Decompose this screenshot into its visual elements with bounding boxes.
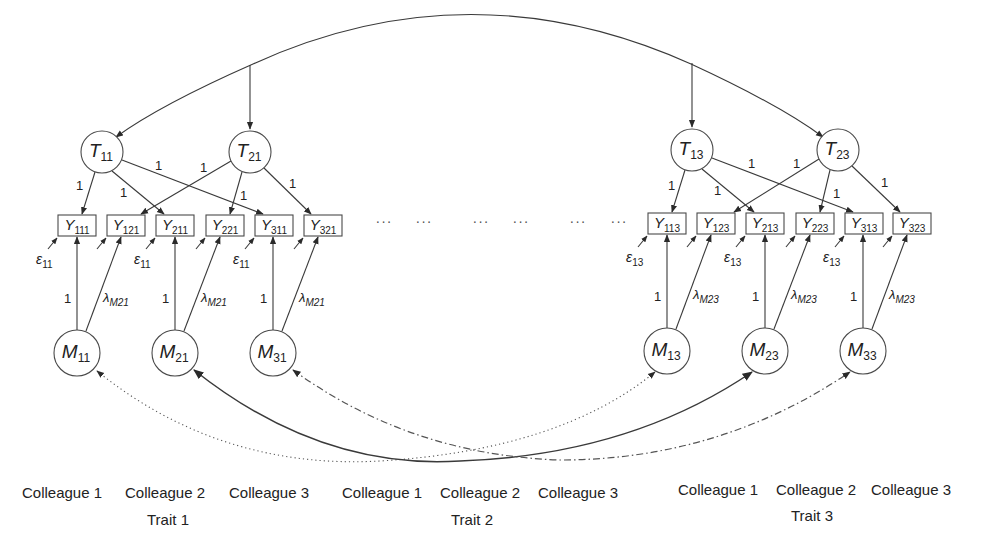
trait-group-3: Colleague 1Colleague 2Colleague 3Trait 3 bbox=[678, 481, 951, 524]
trait-label: Trait 2 bbox=[451, 511, 493, 528]
error-label: ε11 bbox=[36, 251, 53, 270]
trait-correlation-arc-left bbox=[116, 64, 253, 137]
trait-loading-label: 1 bbox=[76, 178, 83, 193]
trait-loading-label: 1 bbox=[748, 156, 755, 171]
indicator-y313: Y313 bbox=[845, 213, 883, 234]
loading-arrow bbox=[774, 235, 810, 329]
method-loading-label: 1 bbox=[654, 289, 661, 304]
trait-correlation-arc bbox=[253, 15, 691, 65]
lambda-label: λM21 bbox=[298, 290, 325, 308]
colleague-label: Colleague 3 bbox=[538, 484, 618, 501]
error-label: ε13 bbox=[724, 249, 742, 268]
method-correlation-arc-dashdot bbox=[293, 370, 850, 460]
colleague-label: Colleague 1 bbox=[22, 484, 102, 501]
trait-factor-t23: T23 bbox=[817, 129, 859, 171]
loading-arrow bbox=[734, 159, 819, 212]
loading-arrow bbox=[820, 170, 830, 212]
trait-loading-label: 1 bbox=[240, 188, 247, 203]
method-correlation-arcs bbox=[97, 370, 850, 462]
mtmm-path-diagram: T11T21T13T23 M11M21M31M13M23M33 Y111Y121… bbox=[0, 0, 988, 538]
ellipsis-dots: ··· bbox=[473, 213, 490, 229]
trait-correlation-arc-right bbox=[691, 64, 823, 137]
colleague-label: Colleague 3 bbox=[229, 484, 309, 501]
method-factor-m11: M11 bbox=[54, 330, 100, 376]
lambda-label: λM21 bbox=[200, 290, 227, 308]
error-arrow bbox=[786, 236, 795, 247]
indicator-y123: Y123 bbox=[697, 213, 735, 234]
error-arrow bbox=[196, 238, 205, 249]
indicator-y111: Y111 bbox=[58, 215, 96, 236]
error-arrow bbox=[97, 238, 106, 249]
error-arrow bbox=[146, 238, 155, 249]
trait-correlation-arcs bbox=[116, 15, 823, 138]
method-factor-m23: M23 bbox=[742, 328, 788, 374]
loading-arrow bbox=[282, 237, 318, 331]
ellipsis-dots: ··· bbox=[513, 213, 530, 229]
error-label: ε13 bbox=[626, 249, 644, 268]
method-loading-label: 1 bbox=[752, 289, 759, 304]
indicator-y211: Y211 bbox=[156, 215, 194, 236]
error-arrow bbox=[883, 236, 892, 247]
ellipsis-dots: ··· bbox=[416, 213, 433, 229]
error-arrow bbox=[48, 238, 57, 249]
colleague-label: Colleague 3 bbox=[871, 481, 951, 498]
colleague-label: Colleague 2 bbox=[125, 484, 205, 501]
loading-arrow bbox=[86, 237, 121, 331]
ellipsis-dots: ··· bbox=[570, 213, 587, 229]
lambda-label: λM23 bbox=[692, 287, 719, 305]
method-factors: M11M21M31M13M23M33 bbox=[54, 328, 886, 376]
error-arrow bbox=[736, 236, 745, 247]
method-loading-label: 1 bbox=[260, 291, 267, 306]
error-label: ε13 bbox=[823, 249, 841, 268]
trait-loading-label: 1 bbox=[200, 160, 207, 175]
trait-factor-t21: T21 bbox=[229, 131, 271, 173]
lambda-label: λM21 bbox=[102, 290, 129, 308]
error-arrow bbox=[245, 238, 254, 249]
loading-arrow bbox=[184, 237, 220, 331]
ellipsis-dots: ··· bbox=[611, 213, 628, 229]
trait-label: Trait 3 bbox=[791, 507, 833, 524]
ellipsis-dots: ··· bbox=[376, 213, 393, 229]
method-factor-m33: M33 bbox=[840, 328, 886, 374]
error-arrow bbox=[294, 238, 303, 249]
trait-loading-label: 1 bbox=[833, 186, 840, 201]
indicator-y113: Y113 bbox=[648, 213, 686, 234]
loading-arrow bbox=[852, 166, 900, 212]
colleague-label: Colleague 2 bbox=[776, 481, 856, 498]
method-correlation-arc-solid bbox=[194, 370, 752, 462]
error-arrow bbox=[638, 236, 647, 247]
trait-loading-label: 1 bbox=[120, 185, 127, 200]
trait-loading-label: 1 bbox=[155, 158, 162, 173]
indicator-y323: Y323 bbox=[893, 213, 931, 234]
error-label: ε11 bbox=[134, 251, 151, 270]
loading-arrow bbox=[872, 235, 907, 329]
trait-loading-label: 1 bbox=[793, 156, 800, 171]
method-loading-label: 1 bbox=[162, 291, 169, 306]
method-factor-m13: M13 bbox=[644, 328, 690, 374]
trait-factor-t13: T13 bbox=[671, 129, 713, 171]
trait-loading-label: 1 bbox=[289, 176, 296, 191]
trait-factor-t11: T11 bbox=[81, 131, 123, 173]
group-labels: Colleague 1Colleague 2Colleague 3Trait 1… bbox=[22, 481, 951, 528]
loading-arrow bbox=[264, 168, 311, 214]
trait-loading-label: 1 bbox=[881, 175, 888, 190]
trait-group-1: Colleague 1Colleague 2Colleague 3Trait 1 bbox=[22, 484, 309, 528]
colleague-label: Colleague 1 bbox=[678, 481, 758, 498]
trait-loading-label: 1 bbox=[714, 183, 721, 198]
method-loading-label: 1 bbox=[850, 289, 857, 304]
lambda-label: λM23 bbox=[888, 287, 915, 305]
loading-arrow bbox=[676, 235, 711, 329]
method-factor-m31: M31 bbox=[250, 330, 296, 376]
trait-loading-label: 1 bbox=[668, 178, 675, 193]
method-factor-m21: M21 bbox=[152, 330, 198, 376]
trait-group-2: Colleague 1Colleague 2Colleague 3Trait 2 bbox=[342, 484, 618, 528]
trait-factors: T11T21T13T23 bbox=[81, 129, 859, 173]
colleague-label: Colleague 2 bbox=[440, 484, 520, 501]
indicator-y223: Y223 bbox=[796, 213, 834, 234]
method-loading-label: 1 bbox=[64, 291, 71, 306]
indicators: Y111Y121Y211Y221Y311Y321Y113Y123Y213Y223… bbox=[58, 213, 931, 236]
error-arrow bbox=[835, 236, 844, 247]
trait-label: Trait 1 bbox=[147, 511, 189, 528]
error-arrow bbox=[687, 236, 696, 247]
loading-arrow bbox=[82, 172, 95, 214]
